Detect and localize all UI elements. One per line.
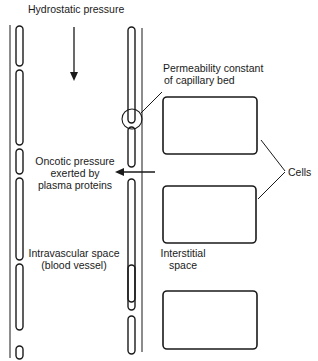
oncotic-label-line1: Oncotic pressure [34, 155, 116, 167]
cells-label: Cells [288, 166, 311, 178]
interstitial-label-line1: Interstitial [160, 247, 206, 259]
interstitial-space-label: Interstitial space [160, 247, 206, 271]
permeability-label-line2: of capillary bed [163, 74, 263, 86]
cell-3 [163, 291, 257, 349]
permeability-highlight-circle [122, 109, 142, 129]
intravascular-space-label: Intravascular space (blood vessel) [28, 247, 120, 271]
left-vessel-wall [16, 26, 23, 359]
intravascular-label-line1: Intravascular space [28, 247, 120, 259]
oncotic-pressure-label: Oncotic pressure exerted by plasma prote… [34, 155, 116, 191]
hydrostatic-arrow-head [70, 72, 78, 81]
interstitial-label-line2: space [160, 259, 206, 271]
permeability-label: Permeability constant of capillary bed [163, 62, 263, 86]
right-vessel-wall [128, 27, 135, 354]
intravascular-label-line2: (blood vessel) [28, 259, 120, 271]
oncotic-label-line2: exerted by [34, 167, 116, 179]
oncotic-label-line3: plasma proteins [34, 179, 116, 191]
cell-2 [163, 186, 256, 243]
hydrostatic-pressure-label: Hydrostatic pressure [28, 3, 124, 15]
permeability-label-line1: Permeability constant [163, 62, 263, 74]
oncotic-arrow-head [115, 168, 124, 176]
cell-1 [163, 97, 257, 154]
cells-pointer-line-upper [261, 140, 285, 171]
cells-pointer-line-lower [258, 172, 285, 199]
permeability-leader-line [141, 92, 162, 113]
